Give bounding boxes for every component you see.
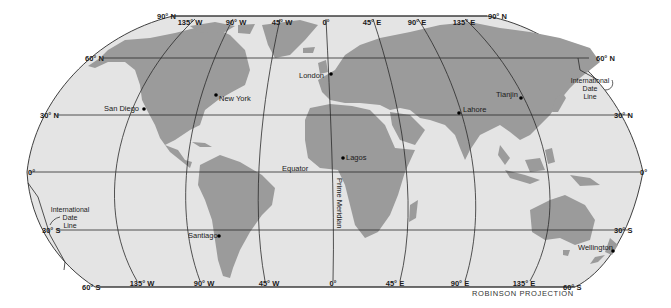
svg-text:45° E: 45° E	[386, 279, 404, 288]
svg-text:0°: 0°	[322, 18, 329, 27]
lat-90n-right: 90° N	[488, 12, 507, 21]
svg-text:Date: Date	[63, 214, 78, 221]
projection-label: ROBINSON PROJECTION	[472, 289, 574, 298]
svg-text:International: International	[51, 206, 90, 213]
svg-text:90° W: 90° W	[226, 18, 247, 27]
svg-text:Lahore: Lahore	[463, 105, 486, 114]
lat-30s-right: 30° S	[614, 226, 632, 235]
svg-text:San Diego: San Diego	[104, 104, 139, 113]
world-map: 90° N 90° N 60° N 60° N 30° N 30° N 0° 0…	[0, 0, 671, 308]
svg-text:90° E: 90° E	[408, 18, 426, 27]
svg-text:New York: New York	[219, 94, 251, 103]
lat-30s-left: 30° S	[42, 226, 60, 235]
svg-text:Santiago: Santiago	[188, 231, 218, 240]
svg-text:London: London	[299, 71, 324, 80]
lat-60s-left: 60° S	[82, 283, 100, 292]
lat-30n-left: 30° N	[40, 111, 59, 120]
city-lagos: Lagos	[341, 153, 366, 162]
svg-text:International: International	[571, 77, 610, 84]
svg-text:45° E: 45° E	[363, 18, 381, 27]
city-new-york: New York	[214, 93, 251, 103]
lat-0-left: 0°	[28, 168, 35, 177]
svg-text:0°: 0°	[329, 279, 336, 288]
lat-60n-right: 60° N	[596, 54, 615, 63]
svg-text:Line: Line	[583, 93, 596, 100]
svg-text:45° W: 45° W	[272, 18, 293, 27]
svg-text:Tianjin: Tianjin	[496, 90, 518, 99]
lat-90n-left: 90° N	[157, 12, 176, 21]
svg-text:Wellington: Wellington	[578, 243, 613, 252]
equator-label: Equator	[282, 164, 309, 173]
svg-text:135° E: 135° E	[513, 279, 536, 288]
svg-text:135° E: 135° E	[453, 18, 476, 27]
svg-text:Date: Date	[583, 85, 598, 92]
svg-text:135° W: 135° W	[178, 18, 204, 27]
city-wellington: Wellington	[578, 243, 615, 253]
lat-30n-right: 30° N	[614, 111, 633, 120]
svg-text:Line: Line	[63, 222, 76, 229]
svg-text:135° W: 135° W	[130, 279, 156, 288]
prime-meridian-label: Prime Meridian	[335, 178, 344, 228]
city-santiago: Santiago	[188, 231, 221, 240]
svg-text:45° W: 45° W	[259, 279, 280, 288]
svg-text:Lagos: Lagos	[346, 153, 367, 162]
svg-text:90° W: 90° W	[194, 279, 215, 288]
svg-text:90° E: 90° E	[451, 279, 469, 288]
lat-60n-left: 60° N	[85, 54, 104, 63]
lat-0-right: 0°	[640, 168, 647, 177]
